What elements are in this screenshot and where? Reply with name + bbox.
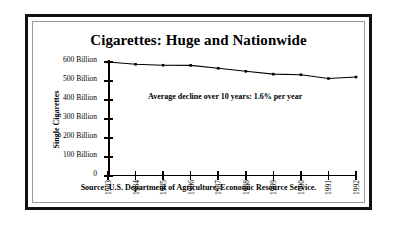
data-point	[244, 70, 247, 73]
y-axis-tick-label: 600 Billion	[63, 55, 97, 64]
y-axis-tick-label: 500 Billion	[63, 74, 97, 83]
data-point	[134, 63, 137, 66]
data-point	[217, 67, 220, 70]
y-axis-tick-label: 400 Billion	[63, 93, 97, 102]
data-point	[107, 61, 110, 64]
data-point	[327, 77, 330, 80]
data-point	[189, 64, 192, 67]
plot-area: 0100 Billion200 Billion300 Billion400 Bi…	[108, 62, 356, 176]
data-point	[300, 73, 303, 76]
series-line	[108, 62, 356, 79]
source-note: Source: U.S. Department of Agriculture, …	[33, 183, 364, 192]
page-title: Cigarettes: Huge and Nationwide	[33, 32, 364, 49]
data-point	[162, 64, 165, 67]
data-point	[272, 73, 275, 76]
figure-inner-frame: Cigarettes: Huge and Nationwide Single C…	[32, 21, 365, 203]
y-axis-tick-label: 0	[93, 169, 97, 178]
y-axis-tick-label: 100 Billion	[63, 150, 97, 159]
y-axis-title: Single Cigarettes	[51, 62, 63, 176]
y-axis-tick-label: 300 Billion	[63, 112, 97, 121]
y-axis-tick-label: 200 Billion	[63, 131, 97, 140]
figure-frame: Cigarettes: Huge and Nationwide Single C…	[25, 14, 372, 210]
data-point	[355, 76, 358, 79]
y-axis-title-label: Single Cigarettes	[53, 90, 62, 148]
data-series	[108, 62, 356, 176]
chart-annotation: Average decline over 10 years: 1.6% per …	[148, 92, 302, 101]
